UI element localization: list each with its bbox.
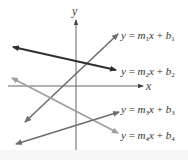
x-axis-label: x (146, 80, 151, 92)
eq-plus: + (157, 103, 163, 115)
eq-plus: + (157, 29, 163, 41)
eq-m: m (138, 129, 146, 141)
equation-label-1: y = m1x + b1 (121, 29, 175, 45)
eq-equals: = (129, 65, 135, 77)
eq-m: m (138, 65, 146, 77)
eq-x: x (149, 129, 154, 141)
eq-plus: + (157, 65, 163, 77)
eq-equals: = (129, 103, 135, 115)
eq-b-sub: 4 (171, 135, 175, 143)
eq-plus: + (157, 129, 163, 141)
eq-equals: = (129, 29, 135, 41)
eq-y: y (121, 29, 126, 41)
equation-label-3: y = m3x + b3 (121, 103, 175, 119)
eq-b-sub: 3 (171, 109, 175, 117)
eq-m: m (138, 103, 146, 115)
equation-label-2: y = m2x + b2 (121, 65, 175, 81)
eq-y: y (121, 103, 126, 115)
equation-label-4: y = m4x + b4 (121, 129, 175, 145)
eq-b-sub: 2 (171, 71, 175, 79)
eq-x: x (149, 103, 154, 115)
eq-y: y (121, 129, 126, 141)
y-axis-label: y (72, 5, 77, 17)
eq-equals: = (129, 129, 135, 141)
eq-b-sub: 1 (171, 35, 175, 43)
eq-x: x (149, 29, 154, 41)
eq-m: m (138, 29, 146, 41)
bottom-strip (0, 150, 188, 160)
eq-x: x (149, 65, 154, 77)
eq-y: y (121, 65, 126, 77)
